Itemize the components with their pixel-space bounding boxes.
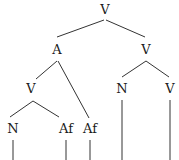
node-n-left: N <box>7 121 18 136</box>
node-af1: Af <box>58 121 74 136</box>
edge-a-af2 <box>58 61 89 118</box>
edge-root-a <box>57 20 104 37</box>
node-v-right: V <box>140 42 151 57</box>
node-v-left: V <box>25 81 36 96</box>
edge-v-left-n-left <box>10 101 33 117</box>
edge-v-right-n-right <box>122 61 146 77</box>
edge-a-v-left <box>36 61 57 79</box>
node-af2: Af <box>82 121 98 136</box>
edge-root-v-right <box>106 20 145 37</box>
node-v-leaf: V <box>164 81 175 96</box>
node-a: A <box>51 42 62 57</box>
node-n-right: N <box>116 81 127 96</box>
edge-v-right-v-leaf <box>146 61 169 77</box>
syntax-tree: V A V V N V N Af Af <box>0 0 179 160</box>
node-root-v: V <box>99 2 110 17</box>
edge-v-left-af1 <box>33 101 59 117</box>
